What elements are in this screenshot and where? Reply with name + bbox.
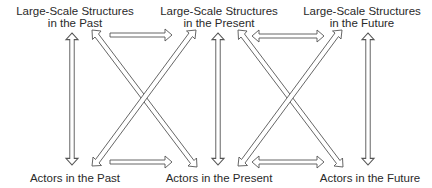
- arrow-structures-future-actors-future: [362, 33, 374, 165]
- arrow-actors-present-actors-future: [252, 156, 324, 168]
- arrow-structures-present-actors-present: [212, 33, 224, 165]
- arrow-structures-past-structures-present: [110, 29, 172, 41]
- arrow-structures-past-actors-past: [66, 33, 78, 165]
- arrow-actors-past-actors-present: [110, 156, 172, 168]
- arrow-layer: [0, 0, 432, 188]
- arrow-structures-present-structures-future: [252, 30, 324, 42]
